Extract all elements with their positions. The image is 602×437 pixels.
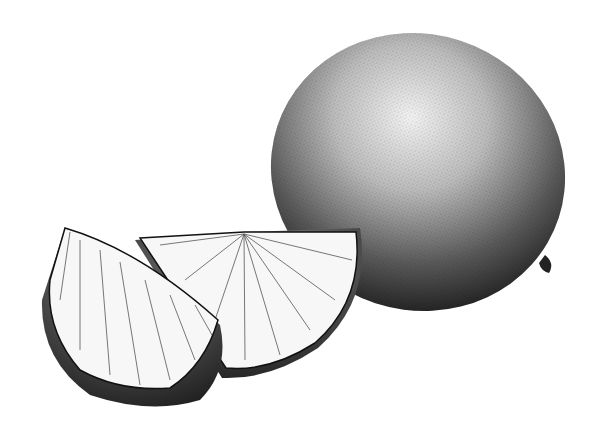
illustration-canvas bbox=[0, 0, 602, 437]
citrus-illustration bbox=[0, 0, 602, 437]
